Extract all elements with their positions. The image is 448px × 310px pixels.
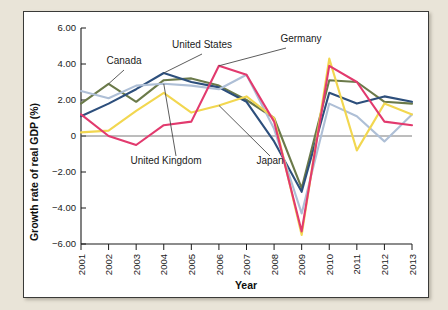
series-label-japan: Japan <box>256 155 283 166</box>
y-tick-label: 2.00 <box>58 94 77 105</box>
y-tick-label: 4.00 <box>58 58 77 69</box>
series-label-united-kingdom: United Kingdom <box>130 155 201 166</box>
y-tick-label: −2.00 <box>52 166 76 177</box>
x-tick-label: 2004 <box>158 254 169 275</box>
series-label-germany: Germany <box>280 33 321 44</box>
x-tick-label: 2013 <box>407 254 418 275</box>
series-label-canada: Canada <box>106 55 141 66</box>
leader-line-canada <box>109 70 124 84</box>
x-tick-label: 2006 <box>214 254 225 275</box>
x-tick-label: 2003 <box>131 254 142 275</box>
x-axis-title: Year <box>235 279 257 291</box>
gdp-growth-line-chart: Growth rate of real GDP (%) 6.004.002.00… <box>24 12 428 297</box>
y-tick-label: −6.00 <box>52 238 76 249</box>
x-tick-label: 2009 <box>296 254 307 275</box>
x-axis-tick-marks <box>81 244 412 250</box>
y-axis-title: Growth rate of real GDP (%) <box>28 103 40 241</box>
y-tick-label: −4.00 <box>52 202 76 213</box>
leader-line-united-kingdom <box>164 84 176 156</box>
x-tick-label: 2011 <box>351 254 362 274</box>
x-tick-label: 2010 <box>324 254 335 275</box>
leader-line-united-states <box>164 54 202 73</box>
series-label-united-states: United States <box>172 39 232 50</box>
x-tick-label: 2012 <box>379 254 390 275</box>
data-series-group <box>81 59 412 235</box>
series-line-germany <box>81 66 412 232</box>
leader-line-japan <box>219 105 270 156</box>
y-axis-tick-labels: 6.004.002.000−2.00−4.00−6.00 <box>52 22 76 249</box>
y-axis-title-text: Growth rate of real GDP (%) <box>28 103 40 241</box>
figure-container: Growth rate of real GDP (%) 6.004.002.00… <box>0 0 448 310</box>
x-axis-tick-labels: 2001200220032004200520062007200820092010… <box>76 254 418 275</box>
leader-line-germany <box>219 48 286 66</box>
x-tick-label: 2001 <box>76 254 87 275</box>
x-tick-label: 2008 <box>269 254 280 275</box>
x-tick-label: 2007 <box>241 254 252 275</box>
x-tick-label: 2005 <box>186 254 197 275</box>
chart-card: Growth rate of real GDP (%) 6.004.002.00… <box>23 11 429 298</box>
y-tick-label: 0 <box>71 130 76 141</box>
y-tick-label: 6.00 <box>58 22 77 33</box>
x-tick-label: 2002 <box>103 254 114 275</box>
